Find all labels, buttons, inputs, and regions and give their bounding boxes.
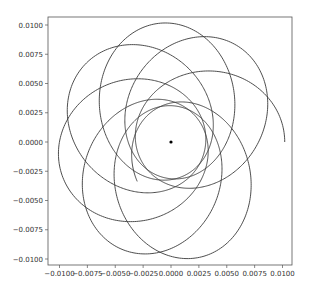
x-tick-label: 0.0075 <box>242 270 267 278</box>
y-axis-ticks: 0.01000.00750.00500.00250.0000−0.0025−0.… <box>13 22 48 264</box>
x-tick-label: 0.0000 <box>159 270 184 278</box>
y-tick-label: −0.0025 <box>13 168 43 176</box>
x-tick-label: 0.0050 <box>215 270 240 278</box>
y-tick-label: 0.0075 <box>19 51 44 59</box>
x-tick-label: 0.0025 <box>187 270 212 278</box>
x-axis-ticks: −0.0100−0.0075−0.0050−0.00250.00000.0025… <box>44 265 294 278</box>
y-tick-label: 0.0050 <box>19 80 44 88</box>
x-tick-label: −0.0050 <box>100 270 130 278</box>
y-tick-label: 0.0100 <box>19 22 44 30</box>
y-tick-label: −0.0050 <box>13 197 43 205</box>
y-tick-label: −0.0075 <box>13 226 43 234</box>
x-tick-label: −0.0025 <box>128 270 158 278</box>
x-tick-label: −0.0100 <box>44 270 74 278</box>
plot-area <box>58 23 284 259</box>
x-tick-label: 0.0100 <box>270 270 295 278</box>
orbit-figure: −0.0100−0.0075−0.0050−0.00250.00000.0025… <box>0 0 309 293</box>
x-tick-label: −0.0075 <box>72 270 102 278</box>
y-tick-label: 0.0025 <box>19 109 44 117</box>
central-body-point <box>169 140 172 143</box>
y-tick-label: −0.0100 <box>13 256 43 264</box>
y-tick-label: 0.0000 <box>19 139 44 147</box>
